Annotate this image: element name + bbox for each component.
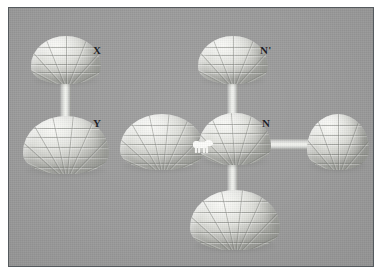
label-n: N <box>262 118 270 129</box>
label-x: X <box>93 45 101 56</box>
bear-leg <box>203 147 205 153</box>
igloo-brick-ribs <box>307 114 369 170</box>
polar-bear-icon <box>191 139 213 155</box>
igloo-scene: X Y <box>9 8 373 266</box>
igloo-x <box>31 36 101 84</box>
igloo-n-prime <box>198 36 268 84</box>
bear-leg <box>198 147 200 153</box>
bear-snout <box>210 142 213 145</box>
label-n-prime: N' <box>260 45 271 56</box>
igloo-brick-ribs <box>190 190 280 250</box>
igloo-brick-ribs <box>31 36 101 84</box>
igloo-right <box>307 114 369 170</box>
bear-leg <box>195 147 197 153</box>
igloo-brick-ribs <box>198 36 268 84</box>
label-y: Y <box>93 118 101 129</box>
figure-frame: X Y <box>8 7 374 267</box>
bear-leg <box>206 147 208 153</box>
igloo-bottom <box>190 190 280 250</box>
